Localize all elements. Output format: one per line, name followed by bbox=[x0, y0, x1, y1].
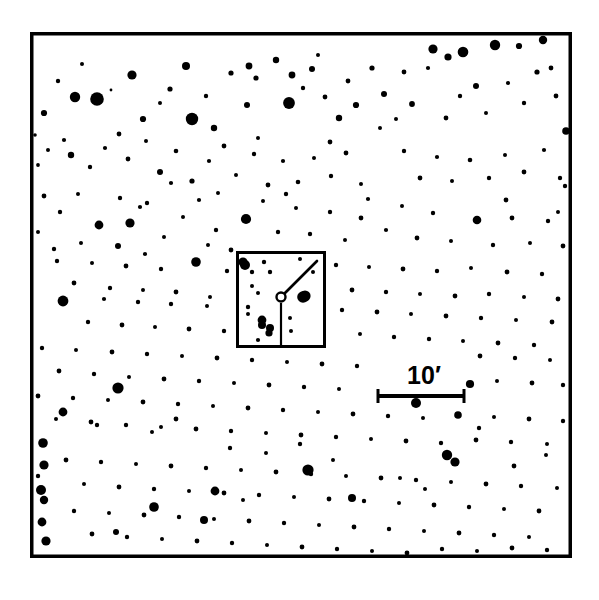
star-point bbox=[439, 441, 443, 445]
star-point bbox=[522, 295, 526, 299]
star-point bbox=[384, 290, 388, 294]
star-point bbox=[492, 415, 496, 419]
star-point bbox=[92, 372, 96, 376]
star-point bbox=[250, 284, 254, 288]
star-point bbox=[381, 91, 387, 97]
star-point bbox=[205, 304, 209, 308]
scale-bar-label: 10′ bbox=[407, 361, 441, 389]
star-point bbox=[539, 36, 547, 44]
star-point bbox=[247, 519, 252, 524]
star-point bbox=[461, 339, 465, 343]
star-point bbox=[311, 270, 315, 274]
star-point bbox=[194, 427, 199, 432]
star-point bbox=[308, 232, 312, 236]
star-point bbox=[167, 86, 172, 91]
star-point bbox=[212, 517, 216, 521]
star-point bbox=[450, 179, 454, 183]
star-point bbox=[449, 239, 453, 243]
star-point bbox=[68, 152, 74, 158]
star-point bbox=[450, 457, 459, 466]
star-point bbox=[490, 40, 500, 50]
star-point bbox=[404, 439, 409, 444]
star-point bbox=[555, 486, 559, 490]
star-point bbox=[112, 382, 123, 393]
star-point bbox=[246, 63, 253, 70]
star-point bbox=[409, 101, 415, 107]
star-field-chart: 10′ bbox=[0, 0, 599, 600]
star-point bbox=[159, 267, 163, 271]
star-point bbox=[369, 437, 373, 441]
star-point bbox=[530, 381, 535, 386]
star-point bbox=[473, 216, 482, 225]
star-point bbox=[484, 111, 488, 115]
star-point bbox=[258, 316, 267, 325]
star-point bbox=[334, 435, 338, 439]
star-point bbox=[222, 329, 226, 333]
star-point bbox=[234, 173, 238, 177]
star-point bbox=[504, 198, 509, 203]
star-point bbox=[556, 297, 561, 302]
star-point bbox=[348, 494, 356, 502]
star-point bbox=[298, 442, 302, 446]
star-point bbox=[74, 348, 78, 352]
star-point bbox=[367, 265, 371, 269]
star-point bbox=[169, 181, 173, 185]
star-point bbox=[58, 210, 62, 214]
star-point bbox=[36, 485, 46, 495]
star-point bbox=[90, 261, 94, 265]
star-point bbox=[323, 95, 328, 100]
star-point bbox=[88, 165, 92, 169]
star-point bbox=[516, 43, 522, 49]
star-point bbox=[125, 535, 129, 539]
star-point bbox=[99, 460, 103, 464]
star-point bbox=[160, 537, 164, 541]
finder-chart-figure: 10′ bbox=[0, 0, 599, 600]
star-point bbox=[222, 144, 227, 149]
star-point bbox=[346, 79, 351, 84]
star-point bbox=[327, 497, 332, 502]
star-point bbox=[174, 290, 179, 295]
star-point bbox=[294, 206, 298, 210]
star-point bbox=[141, 288, 145, 292]
star-point bbox=[211, 125, 217, 131]
star-point bbox=[157, 169, 163, 175]
star-point bbox=[283, 97, 295, 109]
star-point bbox=[312, 156, 316, 160]
star-point bbox=[143, 252, 147, 256]
star-point bbox=[457, 531, 462, 536]
star-point bbox=[225, 269, 229, 273]
star-point bbox=[317, 523, 321, 527]
star-point bbox=[206, 243, 210, 247]
star-point bbox=[268, 270, 272, 274]
star-point bbox=[117, 485, 122, 490]
star-point bbox=[401, 267, 406, 272]
star-point bbox=[421, 416, 425, 420]
star-point bbox=[174, 149, 179, 154]
star-point bbox=[36, 474, 40, 478]
star-point bbox=[378, 126, 382, 130]
star-point bbox=[453, 294, 458, 299]
star-point bbox=[36, 163, 40, 167]
star-point bbox=[40, 346, 44, 350]
star-point bbox=[563, 184, 567, 188]
star-point bbox=[204, 466, 208, 470]
star-point bbox=[527, 535, 531, 539]
star-point bbox=[120, 323, 125, 328]
star-point bbox=[449, 480, 453, 484]
star-point bbox=[145, 201, 149, 205]
star-point bbox=[162, 377, 167, 382]
star-point bbox=[80, 62, 84, 66]
star-point bbox=[506, 81, 510, 85]
star-point bbox=[352, 525, 357, 530]
star-point bbox=[435, 269, 439, 273]
star-point bbox=[540, 272, 544, 276]
star-point bbox=[262, 260, 266, 264]
star-point bbox=[238, 257, 247, 266]
star-point bbox=[246, 305, 250, 309]
star-point bbox=[537, 509, 542, 514]
star-point bbox=[256, 136, 260, 140]
star-point bbox=[72, 509, 76, 513]
star-point bbox=[187, 327, 192, 332]
star-point bbox=[423, 487, 427, 491]
star-point bbox=[177, 515, 181, 519]
